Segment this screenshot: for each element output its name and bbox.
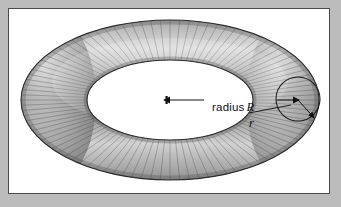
label-radius-word: radius: [212, 101, 245, 113]
figure-frame: radiusR r: [8, 8, 330, 194]
label-radius-symbol: R: [245, 100, 255, 114]
torus-illustration: [9, 9, 330, 194]
label-radius-minor: r: [249, 117, 254, 130]
figure-root: radiusR r: [0, 0, 341, 207]
label-radius-major: radiusR: [212, 101, 254, 114]
center-point-icon: [166, 96, 168, 104]
